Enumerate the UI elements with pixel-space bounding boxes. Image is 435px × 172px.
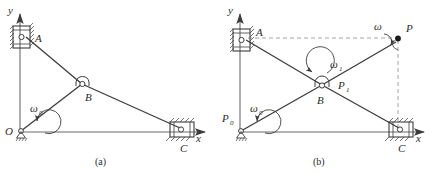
- mechanism-figure: y x O A B C ω 0 (a): [0, 0, 435, 172]
- panel-b-point-b-label: B: [317, 94, 324, 106]
- panel-a-y-axis-label: y: [7, 4, 13, 16]
- panel-b-caption: (b): [313, 156, 325, 168]
- panel-a-point-c-label: C: [180, 142, 188, 154]
- panel-a-omega0-label: ω: [30, 102, 38, 114]
- panel-a-point-b-label: B: [85, 91, 92, 103]
- panel-b-point-p1-label: P: [337, 79, 345, 91]
- panel-a-point-a-label: A: [34, 32, 42, 44]
- panel-b-omega1-subscript: 1: [339, 65, 343, 73]
- panel-b-point-p0-subscript: 0: [230, 119, 234, 127]
- panel-b-point-p1-subscript: 1: [346, 86, 350, 94]
- figure-canvas: y x O A B C ω 0 (a): [0, 0, 435, 172]
- panel-a-x-axis-label: x: [195, 132, 201, 144]
- panel-a-caption: (a): [95, 156, 106, 168]
- panel-b-omega-label: ω: [374, 20, 382, 32]
- panel-a-omega0-subscript: 0: [39, 109, 43, 117]
- panel-b-point-p-label: P: [405, 22, 413, 34]
- panel-b-point-p-marker: [395, 36, 401, 42]
- panel-b-point-c-label: C: [398, 142, 406, 154]
- panel-b-point-p0-label: P: [221, 112, 229, 124]
- panel-b-omega0-label: ω: [250, 102, 258, 114]
- panel-a-origin-label: O: [5, 125, 13, 137]
- figure-background: [0, 0, 435, 172]
- panel-b-point-a-label: A: [255, 26, 263, 38]
- panel-b-omega0-subscript: 0: [259, 109, 263, 117]
- panel-b-omega1-label: ω: [330, 58, 338, 70]
- panel-b-y-axis-label: y: [227, 4, 233, 16]
- panel-b-x-axis-label: x: [415, 132, 421, 144]
